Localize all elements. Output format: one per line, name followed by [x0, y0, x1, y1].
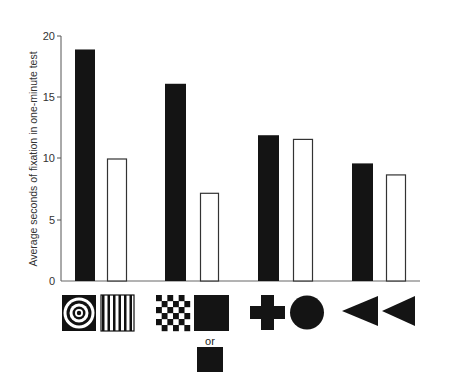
- y-tick-10: 10: [43, 152, 55, 164]
- vertical-stripes-icon: [101, 295, 134, 331]
- cross-icon: [250, 295, 285, 330]
- or-label: or: [205, 335, 215, 347]
- fixation-bar-chart: Average seconds of fixation in one-minut…: [0, 0, 449, 379]
- y-axis-label: Average seconds of fixation in one-minut…: [27, 51, 39, 266]
- y-tick-0: 0: [49, 275, 55, 287]
- y-tick-20: 20: [43, 30, 55, 42]
- stimulus-icons: or: [62, 295, 415, 372]
- white-bar-3: [294, 139, 313, 281]
- checkerboard-icon: [156, 295, 190, 331]
- small-black-square-icon: [197, 347, 223, 372]
- y-tick-5: 5: [49, 214, 55, 226]
- white-bar-2: [201, 193, 219, 281]
- triangle-icon-left: [342, 296, 378, 326]
- y-axis: 20 15 10 5 0: [43, 30, 61, 287]
- black-bar-1: [75, 49, 95, 281]
- circle-icon: [290, 296, 324, 330]
- black-bar-3: [258, 135, 279, 281]
- y-tick-15: 15: [43, 91, 55, 103]
- triangle-icon-right: [382, 296, 415, 326]
- bullseye-icon: [62, 295, 96, 331]
- plain-black-square-icon: [194, 295, 229, 331]
- black-bar-2: [165, 84, 186, 281]
- black-bar-4: [352, 163, 373, 281]
- white-bar-4: [387, 175, 406, 281]
- bars: [75, 49, 406, 281]
- white-bar-1: [108, 159, 127, 281]
